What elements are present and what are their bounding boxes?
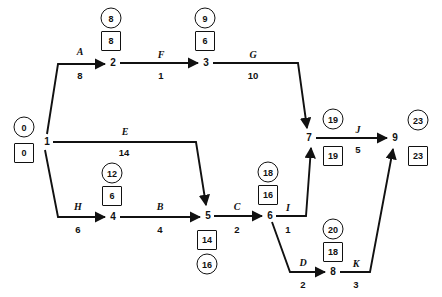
edge-name-G: G xyxy=(249,50,256,60)
edge-name-I: I xyxy=(286,203,290,213)
edge-duration-I: 1 xyxy=(285,225,290,235)
network-edges-svg xyxy=(0,0,442,297)
node-label-5: 5 xyxy=(205,211,211,221)
latest-time-square-node-2: 8 xyxy=(101,31,121,51)
earliest-time-circle-node-9: 23 xyxy=(408,110,429,131)
edge-name-A: A xyxy=(77,47,84,57)
latest-time-square-node-3: 6 xyxy=(195,31,215,51)
earliest-time-circle-node-2: 8 xyxy=(101,8,122,29)
edge-name-H: H xyxy=(74,202,82,212)
edge-name-J: J xyxy=(356,125,361,135)
edge-name-D: D xyxy=(299,258,306,268)
latest-time-square-node-5: 14 xyxy=(197,230,217,250)
node-label-1: 1 xyxy=(44,137,50,147)
edge-name-C: C xyxy=(234,202,241,212)
node-label-2: 2 xyxy=(110,58,116,68)
latest-time-square-node-4: 6 xyxy=(102,186,122,206)
node-label-9: 9 xyxy=(392,133,398,143)
edge-duration-A: 8 xyxy=(77,71,82,81)
latest-time-square-node-8: 18 xyxy=(323,242,343,262)
node-label-3: 3 xyxy=(203,58,209,68)
edge-path-I xyxy=(276,148,311,216)
edge-duration-D: 2 xyxy=(300,280,305,290)
edge-duration-E: 14 xyxy=(119,148,130,158)
earliest-time-circle-node-4: 12 xyxy=(102,163,123,184)
node-label-6: 6 xyxy=(267,211,273,221)
earliest-time-circle-node-5: 16 xyxy=(197,254,218,275)
edge-path-K xyxy=(340,149,393,272)
edge-path-A xyxy=(47,64,105,134)
edge-name-B: B xyxy=(157,202,164,212)
node-label-8: 8 xyxy=(330,267,336,277)
edge-duration-H: 6 xyxy=(75,225,80,235)
edge-name-F: F xyxy=(158,50,165,60)
edge-name-E: E xyxy=(122,127,129,137)
edge-duration-F: 1 xyxy=(158,71,163,81)
edge-duration-G: 10 xyxy=(248,71,259,81)
earliest-time-circle-node-8: 20 xyxy=(323,219,344,240)
earliest-time-circle-node-1: 0 xyxy=(14,117,35,138)
edge-duration-C: 2 xyxy=(234,225,239,235)
latest-time-square-node-6: 16 xyxy=(258,185,278,205)
earliest-time-circle-node-7: 19 xyxy=(323,109,344,130)
earliest-time-circle-node-3: 9 xyxy=(195,8,216,29)
latest-time-square-node-7: 19 xyxy=(323,146,343,166)
edge-duration-K: 3 xyxy=(353,280,358,290)
edge-name-K: K xyxy=(353,259,360,269)
latest-time-square-node-1: 0 xyxy=(14,143,34,163)
latest-time-square-node-9: 23 xyxy=(408,146,428,166)
node-label-4: 4 xyxy=(110,212,116,222)
edge-path-G xyxy=(213,63,307,128)
edge-duration-B: 4 xyxy=(157,225,162,235)
earliest-time-circle-node-6: 18 xyxy=(258,162,279,183)
node-label-7: 7 xyxy=(306,133,312,143)
network-diagram-canvas: 1 2 3 4 5 6 7 8 9 0 8 9 12 16 18 19 20 2… xyxy=(0,0,442,297)
edge-duration-J: 5 xyxy=(355,145,360,155)
